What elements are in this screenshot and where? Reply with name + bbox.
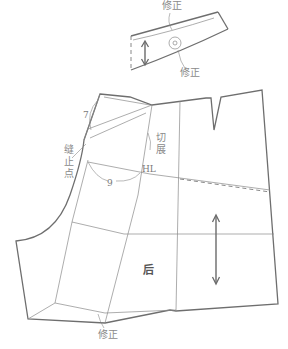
- hem-correction-leader: [98, 314, 104, 328]
- inner-crease-line: [55, 160, 88, 303]
- cut-spread-leader: [148, 133, 151, 150]
- measure-9-label: 9: [107, 178, 113, 188]
- horizontal-guide-line: [72, 222, 274, 234]
- piece-name-label: 后: [143, 263, 154, 277]
- hip-line: [88, 162, 150, 174]
- seam-stop-point-label-char: 点: [64, 168, 74, 179]
- seam-stop-leader: [72, 144, 86, 158]
- hem-inner-line: [28, 303, 55, 319]
- measure-9-arc: [88, 162, 108, 181]
- waistband-correction-bottom-label: 修正: [180, 66, 200, 78]
- pattern-diagram: 修正 修正: [0, 0, 288, 349]
- waistband-correction-top-label: 修正: [162, 0, 182, 11]
- hip-line-extended: [150, 174, 270, 190]
- spread-line-2: [90, 113, 146, 138]
- measure-9-arc-right: [116, 173, 140, 181]
- cut-spread-label-char: 展: [156, 144, 166, 155]
- hem-correction-line: [55, 303, 176, 313]
- waistband-piece: 修正 修正: [131, 0, 228, 78]
- waistband-top-leader: [169, 13, 172, 30]
- waistband-right-edge: [218, 12, 228, 29]
- button-icon: [169, 37, 181, 49]
- hem-correction-label: 修正: [98, 328, 118, 340]
- original-waist-line: [104, 97, 150, 105]
- button-hole-icon: [173, 41, 177, 45]
- seam-stop-point-label-char: 止: [64, 156, 74, 167]
- spread-line-1: [88, 105, 152, 129]
- back-panel: 7 9 缝 止 点 切 展 HL 后 修正: [16, 90, 278, 340]
- seam-stop-point-label: 缝 止 点: [64, 143, 74, 179]
- waistband-correction-line: [133, 18, 214, 40]
- measure-7-label: 7: [83, 110, 89, 120]
- seam-stop-point-label-char: 缝: [64, 143, 74, 155]
- waistband-top-edge: [131, 12, 218, 36]
- back-panel-outline: [16, 90, 278, 323]
- cut-spread-label-char: 切: [156, 132, 166, 143]
- cut-spread-label: 切 展: [156, 132, 166, 155]
- back-grain-arrow-icon: [213, 215, 220, 284]
- back-center-vertical-line: [176, 101, 180, 311]
- waistband-grain-arrow-icon: [142, 41, 149, 65]
- hip-line-dashed: [180, 179, 270, 192]
- hip-line-label: HL: [142, 164, 156, 174]
- front-crease-line: [105, 105, 152, 323]
